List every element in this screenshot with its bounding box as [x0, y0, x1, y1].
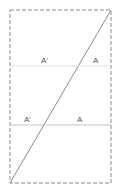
label-upper-a: A	[93, 56, 99, 65]
label-lower-a-prime: A'	[24, 115, 31, 124]
diagonal-line	[10, 10, 111, 183]
diagram-canvas: A' A A' A	[0, 0, 121, 191]
label-lower-a: A	[77, 115, 83, 124]
label-upper-a-prime: A'	[41, 56, 48, 65]
